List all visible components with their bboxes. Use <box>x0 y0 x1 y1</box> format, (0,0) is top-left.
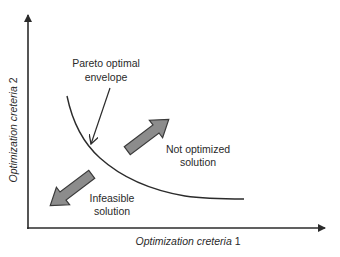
pareto-pointer-arrow <box>91 88 110 144</box>
infeasible-label-line2: solution <box>94 205 130 217</box>
pareto-label-line1: Pareto optimal <box>72 57 140 69</box>
x-axis-label-main: Optimization creteria <box>135 235 231 247</box>
infeasible-label-line1: Infeasible <box>90 192 135 204</box>
x-axis-label-index: 1 <box>232 235 241 247</box>
block-arrow-down-left-icon <box>44 166 99 215</box>
not-optimized-label-line1: Not optimized <box>166 143 230 155</box>
pareto-label-line2: envelope <box>85 71 128 83</box>
x-axis-label: Optimization creteria 1 <box>135 235 240 247</box>
y-axis-label: Optimization creteria 2 <box>7 77 19 182</box>
pareto-diagram: Pareto optimal envelope Not optimized so… <box>0 0 340 257</box>
y-axis-label-main: Optimization creteria <box>7 86 19 182</box>
not-optimized-label: Not optimized solution <box>166 143 230 168</box>
y-axis-label-index: 2 <box>7 77 19 86</box>
pareto-label: Pareto optimal envelope <box>72 57 140 83</box>
infeasible-label: Infeasible solution <box>90 192 135 217</box>
not-optimized-label-line2: solution <box>180 156 216 168</box>
